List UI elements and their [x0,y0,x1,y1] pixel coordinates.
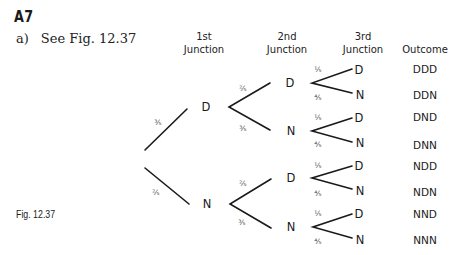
header-1st-junction: Junction [183,44,224,55]
prob-label: ⅖ [239,84,246,93]
header-1st: 1st [196,31,212,42]
outcome-label: NNN [413,234,437,246]
outcome-label: DDD [413,63,437,75]
node-level3: D [355,207,364,221]
outcome-label: NDN [413,186,437,198]
header-outcome: Outcome [402,44,448,55]
node-level2: D [287,171,296,185]
prob-label: ⅘ [314,237,321,246]
prob-label: ⅘ [314,93,321,102]
header-2nd-junction: Junction [266,44,307,55]
header-3rd: 3rd [355,31,372,42]
prob-label: ⅕ [314,209,321,218]
node-level3: N [356,88,365,102]
outcome-label: DND [413,111,437,123]
prob-label: ⅕ [314,65,321,74]
level1-branches: ⅗ ⅖ D N [145,100,211,211]
prob-label: ⅖ [152,188,159,197]
prob-label: ⅗ [238,218,245,227]
node-level1: D [202,100,211,114]
node-level3: N [356,233,365,247]
outcome-label: NDD [413,160,437,172]
node-level3: D [355,111,364,125]
outcome-label: NND [413,208,437,220]
prob-label: ⅕ [314,161,321,170]
fork-lines [230,179,271,228]
branch-line [145,168,189,204]
prob-label: ⅗ [239,124,246,133]
node-level3: D [355,63,364,77]
level3-branches: ⅕ ⅘ ⅕ ⅘ ⅕ ⅘ ⅕ ⅘ D N D N D N D N [312,63,364,247]
node-level1: N [203,197,212,211]
outcome-column: DDD DDN DND DNN NDD NDN NND NNN [413,63,437,246]
fork-lines [229,83,270,130]
outcome-label: DDN [413,89,437,101]
prob-label: ⅕ [314,113,321,122]
outcome-label: DNN [413,139,437,151]
prob-label: ⅘ [314,140,321,149]
node-level3: N [356,184,365,198]
prob-label: ⅗ [154,118,161,127]
column-headers: 1st Junction 2nd Junction 3rd Junction O… [183,31,448,55]
header-2nd: 2nd [277,31,296,42]
prob-label: ⅘ [314,189,321,198]
node-level2: N [287,124,296,138]
branch-line [145,109,187,150]
node-level2: N [287,220,296,234]
header-3rd-junction: Junction [342,44,383,55]
node-level3: N [356,136,365,150]
probability-tree-diagram: 1st Junction 2nd Junction 3rd Junction O… [0,0,455,255]
prob-label: ⅖ [239,179,246,188]
level2-branches: ⅖ ⅗ ⅖ ⅗ D N D N [229,76,296,234]
node-level3: D [355,159,364,173]
node-level2: D [286,76,295,90]
